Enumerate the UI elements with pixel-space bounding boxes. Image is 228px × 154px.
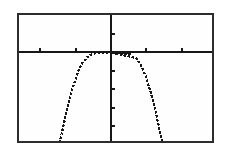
- x-axis-tick: [39, 48, 41, 51]
- x-axis-tick: [181, 48, 183, 51]
- y-axis-line: [110, 15, 112, 141]
- graphing-calculator-screenshot: [0, 0, 228, 154]
- x-axis-tick: [145, 48, 147, 51]
- y-axis-tick: [112, 33, 115, 35]
- function-plot: [0, 0, 228, 154]
- y-axis-tick: [112, 125, 115, 127]
- screen-background: [19, 15, 212, 141]
- x-axis-tick: [75, 48, 77, 51]
- y-axis-tick: [112, 107, 115, 109]
- y-axis-tick: [112, 70, 115, 72]
- y-axis-tick: [112, 88, 115, 90]
